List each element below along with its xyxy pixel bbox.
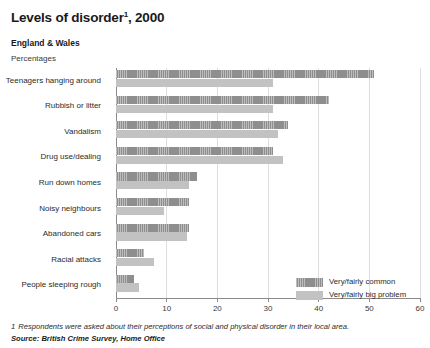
bar-common <box>116 121 288 129</box>
chart-legend: Very/fairly common Very/fairly big probl… <box>296 276 406 302</box>
chart-row: Racial attacks <box>116 247 420 273</box>
footnote-marker: 1 <box>11 322 15 331</box>
footnote-text: Respondents were asked about their perce… <box>18 322 349 331</box>
chart-row: Run down homes <box>116 170 420 196</box>
category-label: Racial attacks <box>51 256 101 264</box>
bar-problem <box>116 283 139 291</box>
chart-footnote: 1Respondents were asked about their perc… <box>11 322 349 331</box>
bar-common <box>116 275 134 283</box>
bar-problem <box>116 232 187 240</box>
page-title-year: , 2000 <box>128 10 164 25</box>
bar-common <box>116 249 144 257</box>
plot-area: Teenagers hanging aroundRubbish or litte… <box>0 68 430 300</box>
bar-common <box>116 147 273 155</box>
bar-problem <box>116 105 273 113</box>
bar-common <box>116 172 197 180</box>
legend-swatch-common-icon <box>296 278 323 287</box>
x-tick-label-60: 60 <box>405 304 430 313</box>
bar-problem <box>116 156 283 164</box>
category-label: Vandalism <box>64 128 101 136</box>
chart-page: Levels of disorder1, 2000 England & Wale… <box>0 0 430 348</box>
x-tick-20 <box>217 298 218 302</box>
category-label: People sleeping rough <box>21 281 101 289</box>
category-label: Teenagers hanging around <box>6 77 101 85</box>
chart-row: Teenagers hanging around <box>116 68 420 94</box>
legend-item-common: Very/fairly common <box>296 276 406 288</box>
legend-item-problem: Very/fairly big problem <box>296 289 406 301</box>
category-label: Noisy neighbours <box>39 205 101 213</box>
x-tick-10 <box>166 298 167 302</box>
chart-subtitle: England & Wales <box>11 38 80 48</box>
page-title: Levels of disorder1, 2000 <box>11 10 164 25</box>
x-tick-label-20: 20 <box>202 304 232 313</box>
chart-source: Source: British Crime Survey, Home Offic… <box>11 334 165 343</box>
bar-common <box>116 224 189 232</box>
chart-row: Vandalism <box>116 119 420 145</box>
chart-row: Drug use/dealing <box>116 145 420 171</box>
x-tick-0 <box>116 298 117 302</box>
category-label: Drug use/dealing <box>41 153 101 161</box>
legend-swatch-problem-icon <box>296 291 323 300</box>
chart-row: Rubbish or litter <box>116 94 420 120</box>
legend-label-common: Very/fairly common <box>329 278 395 286</box>
x-tick-label-10: 10 <box>152 304 182 313</box>
category-label: Rubbish or litter <box>45 102 101 110</box>
chart-row: Abandoned cars <box>116 221 420 247</box>
x-tick-60 <box>420 298 421 302</box>
x-tick-label-50: 50 <box>354 304 384 313</box>
x-tick-label-0: 0 <box>101 304 131 313</box>
x-tick-label-40: 40 <box>304 304 334 313</box>
bar-common <box>116 198 189 206</box>
legend-label-problem: Very/fairly big problem <box>329 291 406 299</box>
chart-units-label: Percentages <box>11 54 56 63</box>
bar-problem <box>116 130 278 138</box>
bar-common <box>116 70 374 78</box>
page-title-text: Levels of disorder <box>11 10 124 25</box>
bar-problem <box>116 258 154 266</box>
category-label: Abandoned cars <box>43 230 101 238</box>
x-tick-30 <box>268 298 269 302</box>
bar-common <box>116 96 329 104</box>
chart-row: Noisy neighbours <box>116 196 420 222</box>
x-tick-label-30: 30 <box>253 304 283 313</box>
bar-problem <box>116 79 273 87</box>
bar-problem <box>116 181 189 189</box>
category-label: Run down homes <box>39 179 101 187</box>
bar-problem <box>116 207 164 215</box>
